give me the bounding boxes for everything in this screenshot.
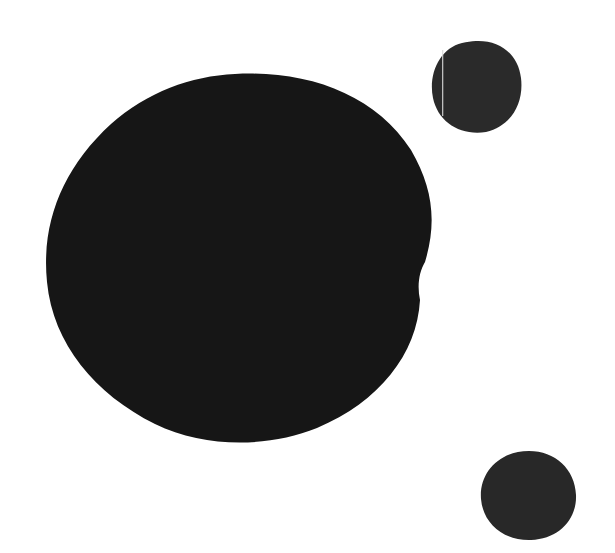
small-ink-blob-top-right xyxy=(430,40,523,134)
canvas xyxy=(0,0,615,553)
large-ink-blob xyxy=(45,72,433,444)
small-ink-blob-bottom-right xyxy=(479,449,577,541)
large-blob-shape xyxy=(45,72,433,444)
top-right-blob-shape xyxy=(430,40,523,134)
bottom-right-blob-shape xyxy=(479,449,577,541)
